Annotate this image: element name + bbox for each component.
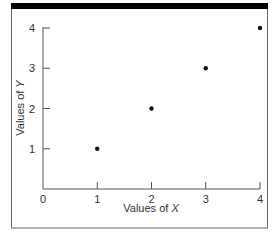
y-tick-label: 1 (29, 143, 35, 155)
top-bar (11, 3, 268, 9)
y-tick-label: 3 (29, 62, 35, 74)
scatter-chart: 1234 01234 Values of X Values of Y (0, 0, 277, 234)
y-tick-label: 4 (29, 22, 35, 34)
data-points (95, 26, 262, 151)
x-axis-title: Values of X (123, 202, 179, 214)
data-point (258, 26, 262, 30)
x-tick-label: 0 (40, 193, 46, 205)
x-tick-label: 3 (203, 193, 209, 205)
data-point (149, 106, 153, 110)
y-axis-title: Values of Y (14, 80, 26, 136)
y-tick-label: 2 (29, 103, 35, 115)
chart-frame (12, 5, 268, 228)
y-ticks: 1234 (29, 22, 50, 155)
data-point (95, 147, 99, 151)
x-tick-label: 4 (257, 193, 263, 205)
x-tick-label: 1 (94, 193, 100, 205)
data-point (204, 66, 208, 70)
